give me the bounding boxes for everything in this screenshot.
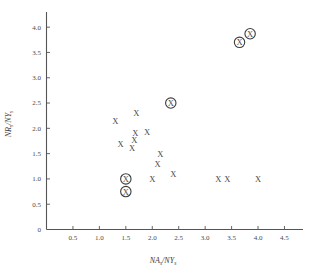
marker-x-glyph: X — [133, 108, 139, 118]
x-tick-label: 3.5 — [227, 234, 236, 242]
x-marker: X — [157, 149, 163, 159]
circled-x-marker: X — [121, 186, 131, 196]
marker-x-glyph: X — [144, 127, 150, 137]
marker-x-glyph: X — [215, 174, 221, 184]
axis-titles: NAs/NYsNRs/NYs — [4, 111, 176, 266]
plot-canvas: 0.51.01.52.02.53.03.54.04.5 00.51.01.52.… — [0, 0, 311, 274]
x-axis-title: NAs/NYs — [149, 256, 177, 266]
x-tick-label: 1.0 — [95, 234, 104, 242]
marker-x-glyph: X — [224, 174, 230, 184]
scatter-plot-figure: 0.51.01.52.02.53.03.54.04.5 00.51.01.52.… — [0, 0, 311, 274]
marker-x-glyph: X — [129, 143, 135, 153]
y-tick-label: 2.0 — [32, 125, 41, 133]
x-axis-ticks: 0.51.01.52.02.53.03.54.04.5 — [69, 226, 290, 242]
y-tick-label: 1.0 — [32, 175, 41, 183]
marker-x-glyph: X — [123, 187, 129, 197]
marker-x-glyph: X — [117, 139, 123, 149]
y-tick-label: 0.5 — [32, 201, 41, 209]
y-tick-label: 3.0 — [32, 74, 41, 82]
x-marker: X — [129, 143, 135, 153]
marker-x-glyph: X — [236, 37, 242, 47]
marker-x-glyph: X — [255, 174, 261, 184]
y-tick-label: 2.5 — [32, 99, 41, 107]
x-tick-label: 0.5 — [69, 234, 78, 242]
x-marker: X — [112, 116, 118, 126]
x-tick-label: 2.0 — [148, 234, 157, 242]
data-points: XXXXXXXXXXXXXXXXXXX — [112, 29, 261, 197]
x-tick-label: 1.5 — [121, 234, 130, 242]
marker-x-glyph: X — [168, 98, 174, 108]
x-marker: X — [215, 174, 221, 184]
x-tick-label: 2.5 — [174, 234, 183, 242]
circled-x-marker: X — [166, 98, 176, 108]
marker-x-glyph: X — [149, 174, 155, 184]
y-axis-ticks: 00.51.01.52.02.53.03.54.0 — [32, 24, 50, 234]
circled-x-marker: X — [245, 29, 255, 39]
marker-x-glyph: X — [112, 116, 118, 126]
x-marker: X — [144, 127, 150, 137]
x-tick-label: 3.0 — [201, 234, 210, 242]
x-marker: X — [170, 169, 176, 179]
y-tick-label: 0 — [38, 226, 42, 234]
y-tick-label: 4.0 — [32, 24, 41, 32]
circled-x-marker: X — [234, 37, 244, 47]
x-marker: X — [224, 174, 230, 184]
x-marker: X — [149, 174, 155, 184]
x-marker: X — [255, 174, 261, 184]
x-tick-label: 4.5 — [280, 234, 289, 242]
x-marker: X — [133, 108, 139, 118]
x-marker: X — [154, 159, 160, 169]
x-tick-label: 4.0 — [254, 234, 263, 242]
marker-x-glyph: X — [157, 149, 163, 159]
circled-x-marker: X — [121, 174, 131, 184]
marker-x-glyph: X — [247, 29, 253, 39]
y-tick-label: 1.5 — [32, 150, 41, 158]
axes — [47, 12, 304, 230]
marker-x-glyph: X — [123, 174, 129, 184]
x-marker: X — [117, 139, 123, 149]
y-tick-label: 3.5 — [32, 49, 41, 57]
marker-x-glyph: X — [170, 169, 176, 179]
marker-x-glyph: X — [154, 159, 160, 169]
y-axis-title: NRs/NYs — [4, 111, 14, 139]
